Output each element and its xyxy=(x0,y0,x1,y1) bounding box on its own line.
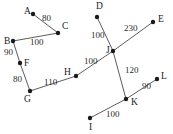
graph-vertex-d xyxy=(95,15,99,19)
vertex-label-a: A xyxy=(24,6,31,16)
graph-vertex-i xyxy=(88,116,92,120)
edge-weight-label: 100 xyxy=(30,37,44,47)
vertex-label-c: C xyxy=(62,21,68,31)
graph-edge xyxy=(113,51,126,99)
vertex-label-h: H xyxy=(64,67,71,77)
graph-diagram: 80100908011010010023012010090 ACBFGHDEJK… xyxy=(0,0,173,134)
edge-weight-label: 120 xyxy=(125,65,139,75)
vertex-label-g: G xyxy=(24,94,31,104)
edge-weight-label: 110 xyxy=(44,77,58,87)
graph-edge xyxy=(13,41,20,63)
edge-weight-label: 100 xyxy=(91,30,105,40)
vertex-labels-layer: ACBFGHDEJKLI xyxy=(4,1,167,132)
vertex-label-j: J xyxy=(106,45,110,55)
graph-vertex-e xyxy=(151,20,155,24)
graph-vertex-f xyxy=(18,61,22,65)
edge-weight-label: 100 xyxy=(84,56,98,66)
graph-vertex-c xyxy=(56,31,60,35)
graph-vertex-h xyxy=(74,74,78,78)
graph-vertex-b xyxy=(11,39,15,43)
graph-canvas: 80100908011010010023012010090 ACBFGHDEJK… xyxy=(0,0,173,134)
vertex-label-b: B xyxy=(4,36,10,46)
graph-vertex-a xyxy=(31,12,35,16)
edge-weight-label: 90 xyxy=(4,47,14,57)
vertex-label-d: D xyxy=(96,1,103,11)
edge-weight-label: 100 xyxy=(106,109,120,119)
graph-vertex-g xyxy=(28,89,32,93)
graph-vertex-k xyxy=(124,97,128,101)
edge-weight-label: 90 xyxy=(142,81,152,91)
vertex-label-i: I xyxy=(89,122,92,132)
vertex-label-l: L xyxy=(161,71,167,81)
vertex-label-e: E xyxy=(158,14,164,24)
graph-vertex-j xyxy=(111,49,115,53)
edge-weight-label: 80 xyxy=(13,74,23,84)
vertex-label-f: F xyxy=(24,58,29,68)
edge-weight-label: 230 xyxy=(124,23,138,33)
graph-vertex-l xyxy=(155,77,159,81)
edge-weight-label: 80 xyxy=(42,13,52,23)
vertex-label-k: K xyxy=(131,97,138,107)
